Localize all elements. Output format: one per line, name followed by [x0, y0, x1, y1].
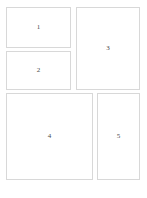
layout-panel-4-label: 4	[48, 133, 52, 140]
layout-panel-2-label: 2	[37, 67, 41, 74]
layout-panel-4[interactable]: 4	[6, 93, 93, 180]
layout-panel-5[interactable]: 5	[97, 93, 140, 180]
layout-panel-1-label: 1	[37, 24, 41, 31]
layout-panel-1[interactable]: 1	[6, 7, 71, 48]
layout-panel-2[interactable]: 2	[6, 51, 71, 90]
layout-panel-3[interactable]: 3	[76, 7, 140, 90]
layout-panel-5-label: 5	[117, 133, 121, 140]
layout-panel-3-label: 3	[106, 45, 110, 52]
wireframe-canvas: 1 2 3 4 5	[0, 0, 147, 198]
